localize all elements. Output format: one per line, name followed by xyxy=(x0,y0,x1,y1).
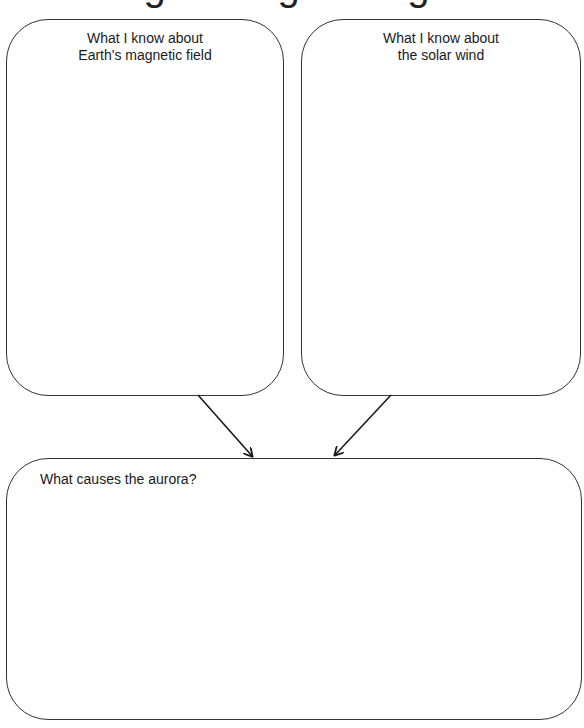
solar-wind-label-line2: the solar wind xyxy=(302,47,580,64)
solar-wind-label: What I know about the solar wind xyxy=(302,30,580,64)
arrow-right-to-bottom-icon xyxy=(335,395,391,455)
earth-magnetic-field-label-line2: Earth's magnetic field xyxy=(7,47,283,64)
aurora-cause-label: What causes the aurora? xyxy=(40,471,196,488)
arrow-left-to-bottom-icon xyxy=(198,395,252,456)
aurora-cause-box[interactable]: What causes the aurora? xyxy=(6,458,582,720)
earth-magnetic-field-label: What I know about Earth's magnetic field xyxy=(7,30,283,64)
page-title: Organizing Thoughts xyxy=(0,0,584,6)
solar-wind-box[interactable]: What I know about the solar wind xyxy=(301,19,581,396)
solar-wind-label-line1: What I know about xyxy=(302,30,580,47)
earth-magnetic-field-label-line1: What I know about xyxy=(7,30,283,47)
earth-magnetic-field-box[interactable]: What I know about Earth's magnetic field xyxy=(6,19,284,396)
